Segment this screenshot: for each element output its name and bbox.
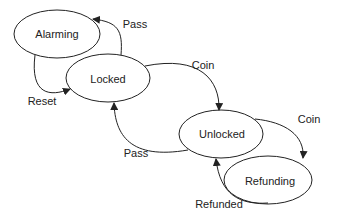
edge-label-pass-locked: Pass — [124, 147, 148, 159]
state-label-refunding: Refunding — [245, 175, 295, 187]
edge-unlocked-locked — [114, 103, 188, 152]
edge-label-pass-alarming: Pass — [123, 18, 147, 30]
edge-label-refunded: Refunded — [195, 198, 243, 210]
edge-label-coin-refunding: Coin — [298, 113, 321, 125]
state-label-alarming: Alarming — [35, 28, 78, 40]
edge-label-coin-unlocked: Coin — [192, 59, 215, 71]
state-label-unlocked: Unlocked — [199, 128, 245, 140]
state-label-locked: Locked — [90, 73, 125, 85]
edge-alarming-locked — [34, 55, 70, 93]
edge-label-reset: Reset — [28, 95, 57, 107]
